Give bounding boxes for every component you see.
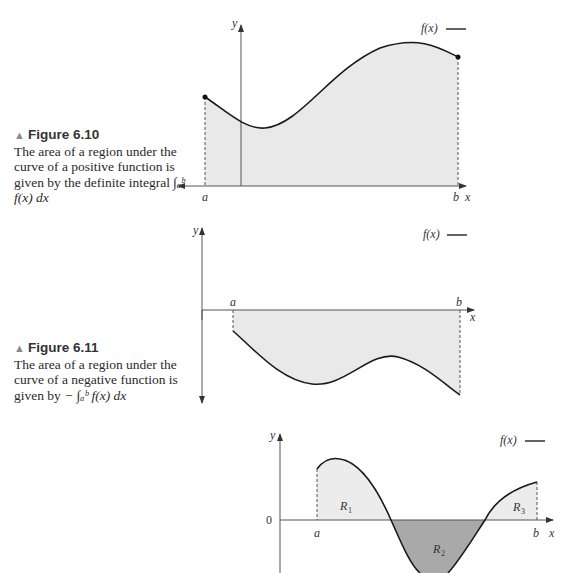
y-label: y (231, 16, 238, 30)
region-label-text: R (432, 542, 441, 556)
x-label: x (548, 526, 555, 540)
legend-label: f(x) (423, 227, 440, 241)
figure-6-11-plot: y a b x f(x) (192, 223, 476, 403)
figure-regions-plot: y 0 a b x f(x) R 1 R 2 R 3 (266, 428, 555, 573)
figures-canvas: y a b x f(x) y a b x f(x) y 0 a b x (0, 0, 568, 573)
x-label: x (464, 190, 471, 204)
b-label: b (456, 295, 462, 309)
endpoint-a (203, 95, 208, 100)
region-label-sub: 1 (348, 506, 352, 515)
x-axis-left-arrow (177, 183, 185, 189)
a-label: a (230, 295, 236, 309)
a-label: a (314, 526, 320, 540)
region-r3-fill (485, 482, 537, 520)
zero-label: 0 (266, 513, 272, 527)
endpoint-b (456, 55, 461, 60)
a-label: a (202, 190, 208, 204)
legend-label: f(x) (500, 433, 517, 447)
area-fill (205, 43, 458, 186)
legend-label: f(x) (421, 21, 438, 35)
x-label: x (469, 310, 476, 324)
area-fill (233, 310, 460, 395)
y-label: y (269, 428, 276, 442)
b-label: b (533, 526, 539, 540)
y-label: y (192, 223, 199, 237)
region-label-text: R (339, 499, 348, 513)
region-label-sub: 3 (521, 507, 525, 516)
region-r1-fill (317, 459, 391, 520)
region-label-sub: 2 (441, 549, 445, 558)
b-label: b (453, 190, 459, 204)
region-label-text: R (512, 500, 521, 514)
figure-6-10-plot: y a b x f(x) (177, 16, 471, 204)
